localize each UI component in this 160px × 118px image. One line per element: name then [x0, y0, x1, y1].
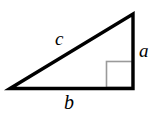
right-triangle-figure: c a b — [0, 0, 160, 118]
triangle-drawing — [0, 0, 160, 118]
vertical-leg-label: a — [139, 41, 149, 60]
hypotenuse-label: c — [55, 29, 63, 48]
figure-background — [0, 0, 160, 118]
base-label: b — [64, 92, 74, 112]
